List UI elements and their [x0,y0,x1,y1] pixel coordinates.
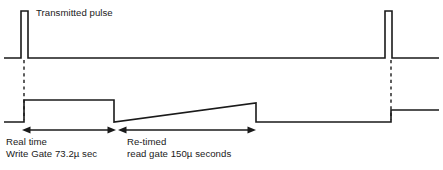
timing-diagram: Transmitted pulse Real time Write Gate 7… [0,0,443,170]
re-timed-read-gate-label: Re-timed read gate 150µ seconds [127,136,231,160]
transmitted-pulse-label: Transmitted pulse [36,7,113,19]
real-time-label-line2: Write Gate 73.2µ sec [6,148,97,160]
real-time-write-gate-label: Real time Write Gate 73.2µ sec [6,136,97,160]
transmitted-pulse-label-text: Transmitted pulse [36,7,113,19]
re-timed-label-line1: Re-timed [127,136,231,148]
dimension-re-timed-read-gate [118,127,256,134]
dimension-real-time-write-gate [22,127,116,134]
gate-waveform [4,100,439,122]
real-time-label-line1: Real time [6,136,97,148]
re-timed-label-line2: read gate 150µ seconds [127,148,231,160]
